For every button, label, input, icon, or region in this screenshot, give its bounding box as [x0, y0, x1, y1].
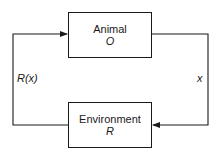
animal-symbol: O [106, 35, 115, 47]
edge-label-x: x [197, 72, 203, 84]
animal-box: Animal O [68, 12, 152, 58]
environment-symbol: R [106, 125, 114, 137]
edge-label-rx: R(x) [17, 72, 38, 84]
environment-title: Environment [79, 113, 141, 125]
animal-title: Animal [93, 23, 127, 35]
environment-box: Environment R [68, 102, 152, 148]
